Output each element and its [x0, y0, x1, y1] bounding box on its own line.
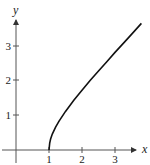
x-tick-label: 3 [112, 153, 118, 165]
x-axis-label: x [141, 142, 148, 156]
x-tick-label: 1 [46, 153, 52, 165]
y-axis-label: y [12, 3, 19, 17]
data-curve [49, 23, 141, 150]
y-tick-label: 3 [6, 40, 12, 52]
y-ticks: 1 2 3 [6, 40, 20, 121]
chart: 1 2 3 1 2 3 x y [0, 0, 150, 165]
y-tick-label: 2 [6, 74, 12, 86]
y-tick-label: 1 [6, 109, 12, 121]
x-tick-label: 2 [79, 153, 85, 165]
